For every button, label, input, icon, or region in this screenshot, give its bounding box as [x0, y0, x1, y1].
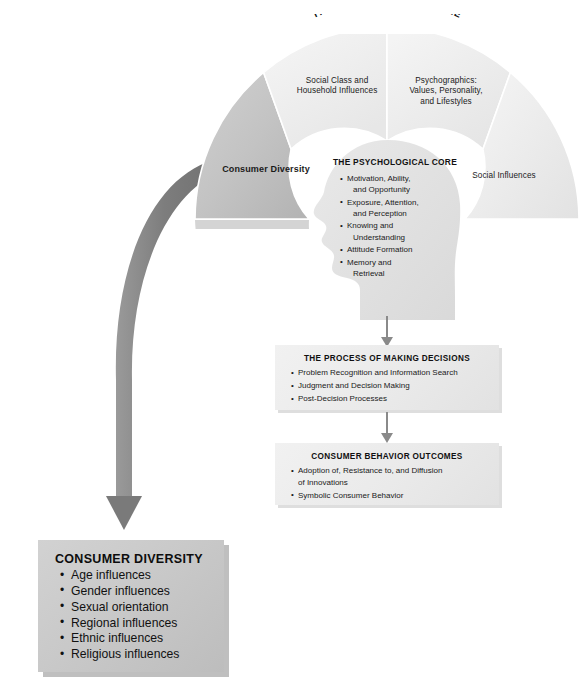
diversity-box-item: Age influences	[60, 568, 224, 584]
diversity-box-title: CONSUMER DIVERSITY	[55, 552, 224, 566]
core-list-item: Attitude Formation	[340, 244, 436, 255]
consumer-diversity-box: CONSUMER DIVERSITY Age influences Gender…	[38, 540, 224, 672]
diversity-box-list: Age influences Gender influences Sexual …	[38, 568, 224, 663]
core-item-line: Exposure, Attention,	[347, 198, 419, 207]
core-item-line: Memory and	[347, 258, 391, 267]
process-box-item: Problem Recognition and Information Sear…	[291, 367, 499, 379]
core-list-item: Exposure, Attention, and Perception	[340, 197, 436, 220]
diversity-box-item: Sexual orientation	[60, 600, 224, 616]
outcomes-item-line: Adoption of, Resistance to, and Diffusio…	[298, 466, 442, 475]
core-item-line: Understanding	[353, 232, 405, 243]
process-of-making-decisions-box: THE PROCESS OF MAKING DECISIONS Problem …	[275, 345, 499, 410]
consumer-behavior-framework-diagram: Consumer Diversity Social Class and Hous…	[0, 0, 584, 698]
process-box-item: Judgment and Decision Making	[291, 380, 499, 392]
consumer-behavior-outcomes-box: CONSUMER BEHAVIOR OUTCOMES Adoption of, …	[275, 443, 499, 505]
psychological-core-list: Motivation, Ability, and Opportunity Exp…	[340, 173, 436, 280]
svg-text:THE CONSUMER'S CULTURE: THE CONSUMER'S CULTURE	[310, 14, 464, 20]
diversity-box-item: Religious influences	[60, 647, 224, 663]
core-item-line: Motivation, Ability,	[347, 174, 410, 183]
outcomes-box-list: Adoption of, Resistance to, and Diffusio…	[275, 465, 499, 501]
diversity-box-item: Gender influences	[60, 584, 224, 600]
core-item-line: Knowing and	[347, 221, 393, 230]
outcomes-box-item: Adoption of, Resistance to, and Diffusio…	[291, 465, 499, 488]
arrow-head-to-process	[377, 316, 399, 348]
diversity-box-item: Ethnic influences	[60, 631, 224, 647]
core-item-line: Attitude Formation	[347, 245, 412, 254]
core-list-item: Motivation, Ability, and Opportunity	[340, 173, 436, 196]
outcomes-box-title: CONSUMER BEHAVIOR OUTCOMES	[275, 452, 499, 461]
core-list-item: Knowing and Understanding	[340, 220, 436, 243]
figure-title: THE CONSUMER'S CULTURE	[186, 14, 584, 74]
process-box-list: Problem Recognition and Information Sear…	[275, 367, 499, 405]
process-box-item: Post-Decision Processes	[291, 393, 499, 405]
arrow-process-to-outcomes	[377, 412, 399, 444]
outcomes-item-line: of Innovations	[298, 478, 348, 487]
outcomes-box-item: Symbolic Consumer Behavior	[291, 490, 499, 502]
core-item-line: and Perception	[353, 208, 407, 219]
core-item-line: and Opportunity	[353, 184, 410, 195]
diversity-box-item: Regional influences	[60, 616, 224, 632]
figure-title-text: THE CONSUMER'S CULTURE	[310, 14, 464, 20]
psychological-core-title: THE PSYCHOLOGICAL CORE	[333, 157, 457, 167]
core-list-item: Memory and Retrieval	[340, 257, 436, 280]
core-item-line: Retrieval	[353, 268, 385, 279]
process-box-title: THE PROCESS OF MAKING DECISIONS	[275, 354, 499, 363]
